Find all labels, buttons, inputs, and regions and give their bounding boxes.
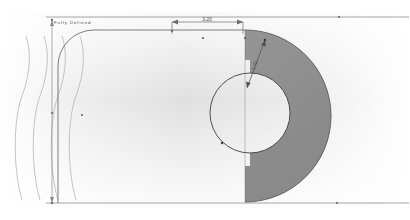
horizontal-dimension-value: 3.20 (202, 16, 212, 22)
midpoint-marker (81, 114, 83, 116)
arc-endpoint-dot (264, 39, 266, 41)
endpoint-dot (338, 16, 340, 18)
arc-endpoint-dot (221, 142, 223, 144)
crescent-shaded-region (150, 20, 410, 215)
endpoint-dot (171, 30, 173, 32)
endpoint-dot (202, 37, 204, 39)
endpoint-dot (244, 37, 246, 39)
sketch-status-label: Fully Defined (54, 20, 91, 25)
drawing-canvas: 3.20 1.00 · Fully Defined (0, 0, 410, 220)
midpoint-marker (51, 112, 53, 114)
